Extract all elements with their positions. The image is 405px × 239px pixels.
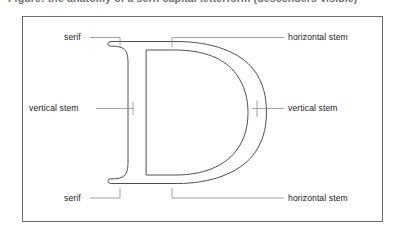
leader-horizontal-stem-bottom — [172, 188, 284, 198]
label-serif-bottom: serif — [64, 194, 81, 203]
label-serif-top: serif — [64, 33, 81, 42]
leader-vertical-stem-right — [252, 101, 284, 118]
label-horizontal-stem-top: horizontal stem — [288, 33, 348, 42]
letterform-anatomy-figure: Figure: the anatomy of a serif capital l… — [0, 0, 405, 239]
leader-lines — [90, 38, 284, 199]
letter-d-outline — [108, 42, 267, 184]
leader-vertical-stem-left — [96, 102, 133, 115]
label-vertical-stem-left: vertical stem — [29, 104, 79, 113]
leader-serif-bottom — [90, 188, 120, 198]
label-vertical-stem-right: vertical stem — [288, 104, 338, 113]
label-horizontal-stem-bottom: horizontal stem — [288, 194, 348, 203]
